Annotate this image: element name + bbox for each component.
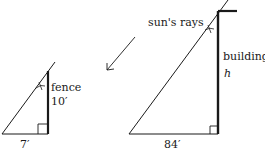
arrow-shaft bbox=[107, 37, 135, 70]
fence-shadow-label: 7′ bbox=[20, 139, 30, 150]
small-right-angle-mark bbox=[38, 124, 48, 134]
small-triangle bbox=[2, 62, 55, 134]
large-angle-tick bbox=[208, 25, 211, 33]
fence-height-label: 10′ bbox=[51, 96, 68, 107]
fence-label: fence bbox=[51, 82, 81, 93]
sun-ray-arrow bbox=[107, 37, 135, 70]
building-label: building bbox=[223, 51, 265, 62]
sun-rays-label: sun's rays bbox=[148, 17, 204, 28]
building-shadow-label: 84′ bbox=[164, 139, 181, 150]
building-height-label: h bbox=[224, 68, 231, 79]
